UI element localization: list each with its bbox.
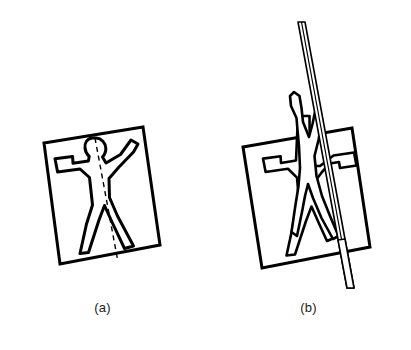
panel-a-caption: (a) <box>0 300 205 315</box>
panel-b-caption: (b) <box>206 300 411 315</box>
mirror-symmetry-diagram <box>0 0 411 350</box>
figure-root: (a) (b) <box>0 0 411 350</box>
panel-a <box>44 127 160 264</box>
